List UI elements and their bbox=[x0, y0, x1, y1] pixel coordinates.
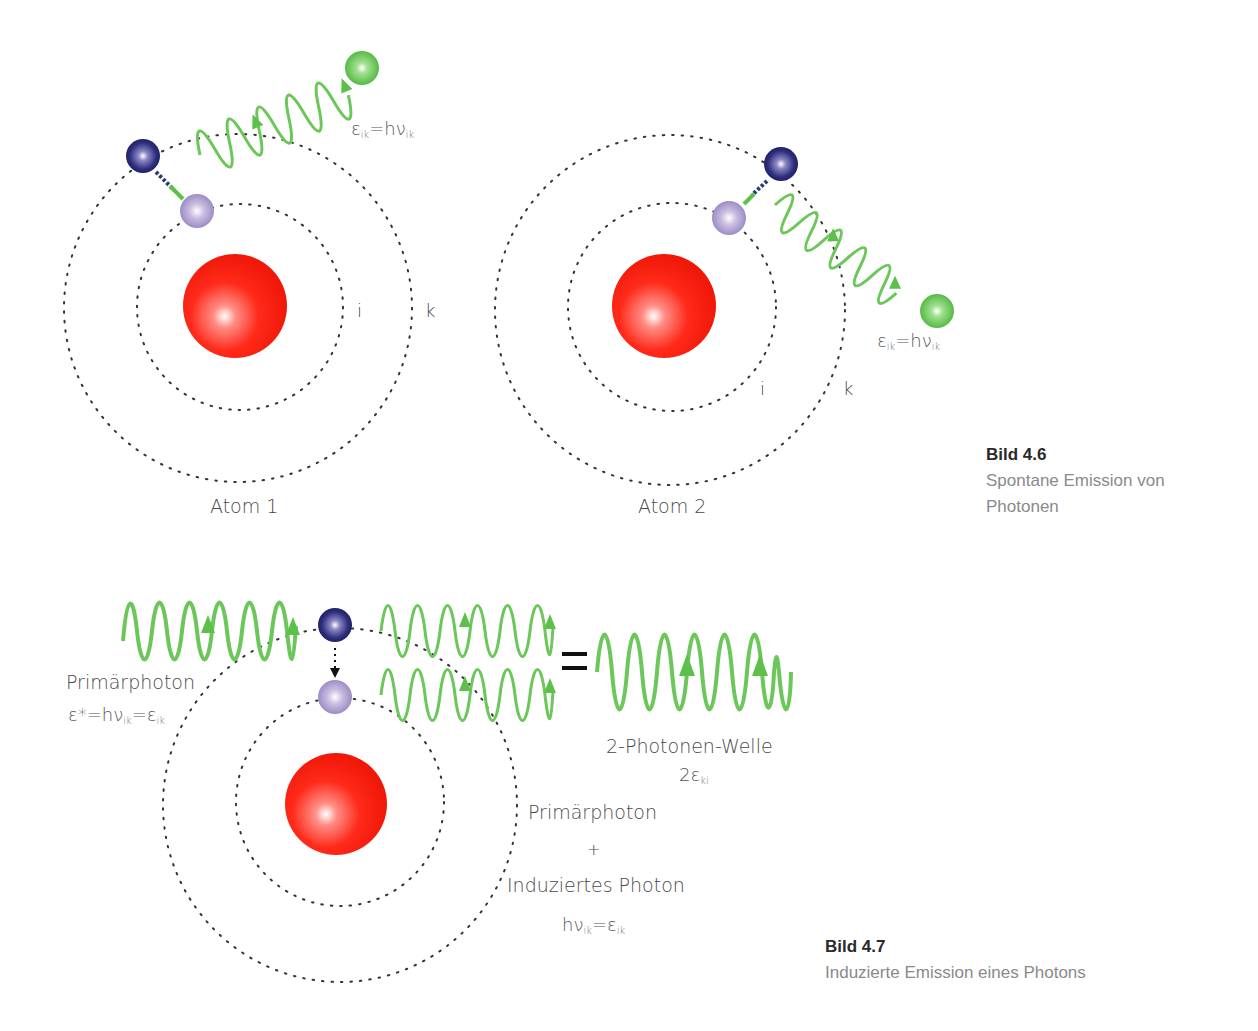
nucleus-icon bbox=[285, 753, 387, 855]
primary-photon-formula: ε*=hνik=εik bbox=[68, 704, 165, 726]
electron-inner-icon bbox=[180, 194, 214, 228]
atom2-label: Atom 2 bbox=[638, 495, 706, 517]
caption-title: Bild 4.7 bbox=[825, 935, 1086, 959]
sum-induced-photon-label: Induziertes Photon bbox=[507, 874, 685, 896]
caption-text-line1: Spontane Emission von bbox=[986, 467, 1165, 494]
sum-plus-label: + bbox=[587, 840, 600, 859]
electron-inner-icon bbox=[318, 680, 352, 714]
atom1-photon-energy-label: εik=hνik bbox=[351, 118, 414, 140]
photon-wave-upper-icon bbox=[381, 606, 556, 657]
electron-outer-icon bbox=[126, 139, 160, 173]
nucleus-icon bbox=[183, 254, 287, 358]
two-photon-formula: 2εki bbox=[679, 764, 709, 786]
atom1-inner-orbit-label: i bbox=[357, 300, 362, 321]
atom-2 bbox=[495, 135, 954, 485]
photon-wave-icon bbox=[192, 72, 363, 176]
figure-4-6-caption: Bild 4.6 Spontane Emission von Photonen bbox=[986, 443, 1165, 520]
nucleus-icon bbox=[612, 254, 716, 358]
electron-outer-icon bbox=[764, 147, 798, 181]
two-photon-wave-label: 2-Photonen-Welle bbox=[606, 735, 773, 757]
transition-arrow-icon bbox=[156, 172, 183, 199]
caption-text: Induzierte Emission eines Photons bbox=[825, 959, 1086, 986]
atom1-outer-orbit-label: k bbox=[425, 300, 435, 321]
figure-4-7-caption: Bild 4.7 Induzierte Emission eines Photo… bbox=[825, 935, 1086, 986]
two-photon-wave-icon bbox=[597, 635, 791, 710]
electron-outer-icon bbox=[318, 608, 352, 642]
primary-photon-wave-icon bbox=[123, 603, 300, 660]
caption-title: Bild 4.6 bbox=[986, 443, 1165, 467]
photon-ball-icon bbox=[345, 51, 379, 85]
atom2-photon-energy-label: εik=hνik bbox=[877, 330, 940, 352]
atom2-outer-orbit-label: k bbox=[843, 378, 853, 399]
transition-arrow-icon bbox=[744, 181, 767, 204]
atom1-label: Atom 1 bbox=[210, 495, 278, 517]
primary-photon-label: Primärphoton bbox=[66, 671, 195, 693]
atom-1 bbox=[64, 51, 412, 482]
photon-wave-lower-icon bbox=[381, 670, 556, 721]
atom-3 bbox=[123, 603, 791, 983]
photon-ball-icon bbox=[920, 294, 954, 328]
atom2-inner-orbit-label: i bbox=[760, 378, 765, 399]
photon-wave-icon bbox=[764, 190, 908, 309]
sum-formula: hνik=εik bbox=[562, 914, 625, 936]
equals-sign-icon bbox=[562, 652, 587, 670]
caption-text-line2: Photonen bbox=[986, 493, 1165, 520]
electron-inner-icon bbox=[712, 201, 746, 235]
sum-primary-photon-label: Primärphoton bbox=[528, 801, 657, 823]
